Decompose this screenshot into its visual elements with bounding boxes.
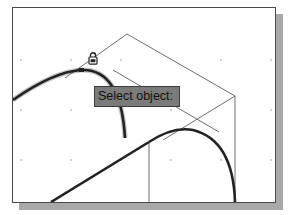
grip-handle[interactable] — [79, 68, 84, 72]
command-prompt-text: Select object: — [98, 89, 173, 103]
drawing-viewport[interactable]: Select object: — [12, 7, 276, 203]
lock-icon — [88, 52, 98, 65]
dynamic-input-tooltip: Select object: — [94, 86, 180, 107]
lower-geometry[interactable] — [51, 129, 235, 202]
